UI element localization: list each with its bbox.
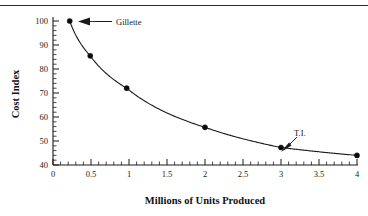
y-tick-label: 90 (40, 40, 49, 50)
annotation-ti: T.I. (281, 128, 306, 152)
data-point-marker (354, 153, 359, 158)
x-tick-label: 2.5 (238, 169, 249, 179)
chart-page: 405060708090100 00.511.522.533.54 Gillet… (0, 0, 368, 216)
data-point-marker (88, 53, 93, 58)
y-axis-title: Cost Index (10, 69, 21, 118)
x-tick-label: 1 (127, 169, 131, 179)
y-tick-label: 70 (40, 88, 49, 98)
y-axis-tick-labels: 405060708090100 (35, 16, 48, 170)
x-tick-label: 0.5 (86, 169, 97, 179)
data-point-marker (124, 86, 129, 91)
ti-label: T.I. (294, 128, 306, 138)
x-tick-label: 3.5 (314, 169, 325, 179)
data-point-marker (67, 18, 72, 23)
x-axis-title: Millions of Units Produced (145, 195, 265, 206)
y-tick-label: 60 (40, 112, 49, 122)
y-tick-label: 40 (40, 160, 49, 170)
y-axis-ticks (53, 21, 59, 165)
gillette-arrowhead-icon (78, 18, 90, 26)
x-axis-tick-labels: 00.511.522.533.54 (51, 169, 360, 179)
data-point-marker (202, 125, 207, 130)
gillette-label: Gillette (116, 17, 142, 27)
y-tick-label: 100 (35, 16, 48, 26)
x-tick-label: 2 (203, 169, 207, 179)
cost-index-chart: 405060708090100 00.511.522.533.54 Gillet… (0, 0, 368, 216)
x-axis-ticks (53, 159, 357, 165)
x-tick-label: 3 (279, 169, 283, 179)
data-point-marker (278, 145, 283, 150)
y-tick-label: 80 (40, 64, 49, 74)
x-tick-label: 0 (51, 169, 55, 179)
annotation-gillette: Gillette (78, 17, 142, 27)
x-tick-label: 1.5 (162, 169, 173, 179)
cost-index-curve (70, 21, 357, 155)
data-point-markers (67, 18, 359, 158)
x-tick-label: 4 (355, 169, 360, 179)
y-tick-label: 50 (40, 136, 49, 146)
